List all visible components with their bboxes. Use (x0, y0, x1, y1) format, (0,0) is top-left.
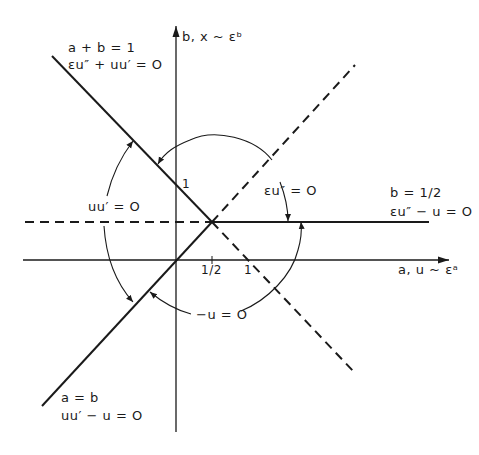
tick-label-a-one: 1 (244, 263, 252, 278)
label-a-eq-b: a = b (61, 390, 99, 405)
line-dashed-diagonal-down (212, 222, 354, 372)
equation-b-eq-half: εu″ − u = O (390, 204, 472, 219)
region-label-upper: εu″ = O (264, 183, 317, 198)
arc-left-bottom (104, 226, 133, 302)
a-axis-label: a, u ~ εᵃ (398, 262, 458, 277)
line-a-plus-b-eq-1 (52, 56, 212, 222)
equation-a-plus-b-eq-1: εu″ + uu′ = O (68, 57, 163, 72)
label-b-eq-half: b = 1/2 (390, 185, 442, 200)
line-a-eq-b (42, 222, 212, 406)
arc-lower-left (150, 292, 191, 314)
region-label-left: uu′ = O (88, 199, 140, 214)
arc-upper (158, 135, 272, 164)
b-axis-label: b, x ~ εᵇ (182, 29, 242, 44)
tick-label-b-one: 1 (182, 177, 190, 192)
equation-a-eq-b: uu′ − u = O (61, 408, 143, 423)
region-label-lower: −u = O (196, 307, 248, 322)
label-a-plus-b-eq-1: a + b = 1 (68, 40, 135, 55)
tick-label-a-half: 1/2 (201, 263, 222, 278)
arc-left-top (107, 141, 133, 196)
line-dashed-diagonal-up (212, 65, 355, 222)
